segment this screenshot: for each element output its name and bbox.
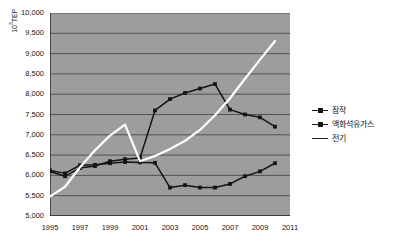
legend-item[interactable]: 전기 xyxy=(312,132,394,145)
legend-marker-icon xyxy=(312,134,328,143)
y-axis-tick-label: 8,500 xyxy=(10,70,44,78)
plot-area xyxy=(50,13,290,216)
y-axis-tick-label: 5,000 xyxy=(10,212,44,220)
x-axis-tick-label: 2001 xyxy=(132,224,149,232)
y-axis-tick-label: 5,500 xyxy=(10,192,44,200)
legend-item[interactable]: 잠작 xyxy=(312,104,394,117)
line-chart-svg xyxy=(50,13,290,216)
x-axis-tick-label: 1997 xyxy=(72,224,89,232)
x-axis-tick-label: 1999 xyxy=(102,224,119,232)
legend-marker-icon xyxy=(312,120,328,129)
legend-marker-icon xyxy=(312,106,328,115)
x-axis-tick-label: 2011 xyxy=(282,224,298,232)
y-axis-tick-label: 6,000 xyxy=(10,171,44,179)
legend-item-label: 잠작 xyxy=(332,107,346,115)
y-axis-tick-label: 6,500 xyxy=(10,151,44,159)
x-axis-tick-labels: 199519971999200120032005200720092011 xyxy=(0,222,396,238)
y-axis-tick-labels: 10,0009,5009,0008,5008,0007,5007,0006,50… xyxy=(8,0,44,243)
y-axis-tick-label: 9,000 xyxy=(10,50,44,58)
y-axis-tick-label: 10,000 xyxy=(10,9,44,17)
y-axis-tick-label: 7,500 xyxy=(10,111,44,119)
y-axis-tick-label: 8,000 xyxy=(10,90,44,98)
legend-item-label: 전기 xyxy=(332,135,346,143)
legend-item-label: 액화석유가스 xyxy=(332,121,374,129)
chart-legend: 잠작액화석유가스전기 xyxy=(312,104,394,146)
x-axis-tick-label: 2009 xyxy=(252,224,269,232)
y-axis-tick-label: 9,500 xyxy=(10,29,44,37)
x-axis-tick-label: 2005 xyxy=(192,224,209,232)
y-axis-tick-label: 7,000 xyxy=(10,131,44,139)
x-axis-tick-label: 1995 xyxy=(42,224,59,232)
x-axis-tick-label: 2007 xyxy=(222,224,239,232)
legend-item[interactable]: 액화석유가스 xyxy=(312,118,394,131)
x-axis-tick-label: 2003 xyxy=(162,224,179,232)
chart-screenshot: 103TEP 10,0009,5009,0008,5008,0007,5007,… xyxy=(0,0,396,243)
